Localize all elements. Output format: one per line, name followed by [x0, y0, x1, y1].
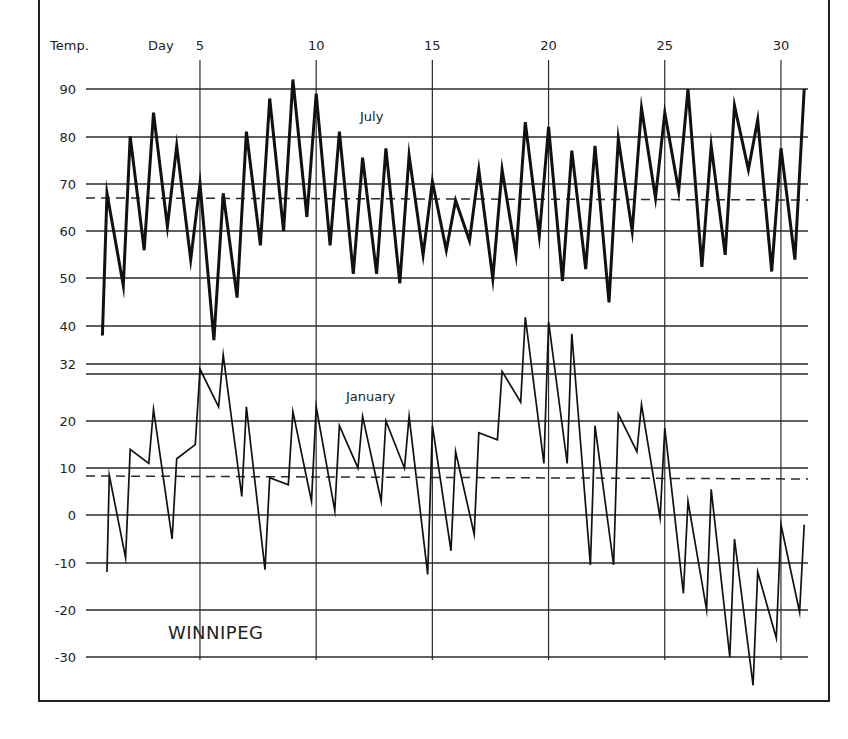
station-label: WINNIPEG [168, 622, 264, 643]
y-tick-label: -20 [55, 603, 76, 618]
january-mean-line [86, 476, 808, 479]
x-axis-ticks: 51015202530 [196, 38, 789, 53]
y-tick-label: -30 [55, 650, 76, 665]
x-tick-label: 25 [656, 38, 673, 53]
day-axis-label: Day [148, 38, 174, 53]
y-tick-label: 90 [59, 82, 76, 97]
x-tick-label: 20 [540, 38, 557, 53]
x-tick-label: 30 [773, 38, 790, 53]
y-tick-label: 50 [59, 271, 76, 286]
y-tick-label: 70 [59, 177, 76, 192]
y-tick-label: 80 [59, 130, 76, 145]
july-series-label: July [359, 109, 384, 124]
july-temperature-line [102, 80, 804, 341]
temp-axis-label: Temp. [49, 38, 89, 53]
y-axis-ticks: 9080706050403220100-10-20-30 [55, 82, 76, 665]
january-series-label: January [345, 389, 396, 404]
y-tick-label: 40 [59, 319, 76, 334]
y-tick-label: 60 [59, 224, 76, 239]
y-tick-label: 0 [68, 508, 76, 523]
y-tick-label: 10 [59, 461, 76, 476]
x-tick-label: 10 [308, 38, 325, 53]
july-mean-line [86, 198, 808, 200]
x-tick-label: 15 [424, 38, 441, 53]
chart-frame [39, 0, 829, 701]
y-tick-label: 32 [59, 357, 76, 372]
temperature-chart: Temp. Day 9080706050403220100-10-20-30 5… [0, 0, 848, 739]
y-tick-label: 20 [59, 414, 76, 429]
y-tick-label: -10 [55, 556, 76, 571]
x-tick-label: 5 [196, 38, 204, 53]
